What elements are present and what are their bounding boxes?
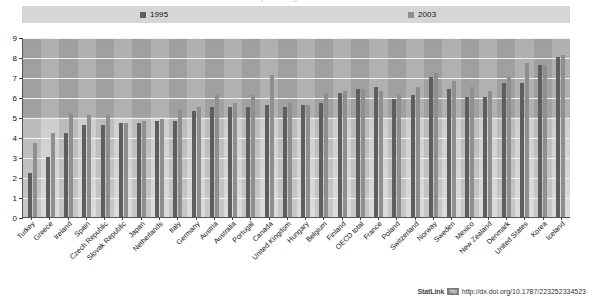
x-axis-tick-label: Greece [33, 220, 55, 242]
bar-group [78, 38, 96, 217]
bar-2003[interactable] [416, 87, 420, 217]
bar-2003[interactable] [251, 95, 255, 217]
bar-1995[interactable] [64, 133, 68, 217]
legend-swatch-2003 [408, 12, 414, 18]
bar-1995[interactable] [119, 123, 123, 217]
bar-2003[interactable] [434, 73, 438, 217]
bar-1995[interactable] [246, 107, 250, 217]
bar-series-container [23, 38, 570, 217]
bar-1995[interactable] [465, 97, 469, 217]
bar-2003[interactable] [507, 77, 511, 217]
bar-2003[interactable] [142, 121, 146, 217]
legend-swatch-1995 [140, 12, 146, 18]
bar-2003[interactable] [561, 55, 565, 217]
y-axis: 0123456789 [0, 38, 20, 218]
bar-2003[interactable] [178, 109, 182, 217]
x-axis-tick-label: Italy [168, 220, 182, 234]
bar-1995[interactable] [447, 89, 451, 217]
bar-1995[interactable] [155, 121, 159, 217]
bar-1995[interactable] [411, 95, 415, 217]
bar-1995[interactable] [356, 89, 360, 217]
bar-1995[interactable] [137, 123, 141, 217]
bar-1995[interactable] [210, 107, 214, 217]
bar-2003[interactable] [543, 65, 547, 217]
y-axis-tick-label: 7 [13, 74, 17, 83]
bar-2003[interactable] [233, 103, 237, 217]
bar-1995[interactable] [429, 77, 433, 217]
bar-group [406, 38, 424, 217]
bar-2003[interactable] [452, 81, 456, 217]
bar-1995[interactable] [173, 121, 177, 217]
bar-group [242, 38, 260, 217]
bar-1995[interactable] [82, 125, 86, 217]
bar-2003[interactable] [288, 103, 292, 217]
statlink-url[interactable]: http://dx.doi.org/10.1787/223252334523 [462, 288, 586, 295]
bar-2003[interactable] [488, 91, 492, 217]
x-axis-labels: TurkeyGreeceIrelandSpainCzech RepublicSl… [22, 220, 570, 280]
bar-1995[interactable] [520, 83, 524, 217]
bar-2003[interactable] [397, 95, 401, 217]
x-axis-tick-label: Iceland [544, 220, 565, 241]
legend-item-2003[interactable]: 2003 [408, 10, 436, 19]
bar-1995[interactable] [374, 87, 378, 217]
bar-1995[interactable] [101, 125, 105, 217]
bar-group [497, 38, 515, 217]
bar-1995[interactable] [556, 57, 560, 217]
y-axis-tick-label: 6 [13, 94, 17, 103]
bar-group [461, 38, 479, 217]
bar-2003[interactable] [51, 133, 55, 217]
bar-1995[interactable] [319, 103, 323, 217]
bar-1995[interactable] [338, 93, 342, 217]
bar-1995[interactable] [192, 111, 196, 217]
x-axis-tick-mark [396, 217, 397, 220]
bar-2003[interactable] [215, 95, 219, 217]
bar-1995[interactable] [483, 97, 487, 217]
cut-off-title-text: percentage of GDP [262, 0, 330, 2]
bar-2003[interactable] [361, 89, 365, 217]
y-axis-tick-label: 0 [13, 214, 17, 223]
bar-2003[interactable] [160, 119, 164, 217]
bar-group [388, 38, 406, 217]
bar-2003[interactable] [324, 93, 328, 217]
bar-group [442, 38, 460, 217]
bar-1995[interactable] [502, 83, 506, 217]
bar-group [297, 38, 315, 217]
bar-2003[interactable] [197, 107, 201, 217]
statlink-footer[interactable]: StatLink http http://dx.doi.org/10.1787/… [417, 288, 586, 295]
bar-2003[interactable] [124, 123, 128, 217]
legend-label-1995: 1995 [150, 10, 168, 19]
bar-2003[interactable] [343, 91, 347, 217]
bar-group [351, 38, 369, 217]
bar-group [534, 38, 552, 217]
bar-2003[interactable] [525, 63, 529, 217]
bar-2003[interactable] [106, 115, 110, 217]
bar-group [151, 38, 169, 217]
bar-group [187, 38, 205, 217]
y-axis-tick-label: 2 [13, 174, 17, 183]
bar-2003[interactable] [87, 115, 91, 217]
bar-1995[interactable] [28, 173, 32, 217]
bar-1995[interactable] [265, 105, 269, 217]
bar-1995[interactable] [228, 107, 232, 217]
bar-1995[interactable] [392, 99, 396, 217]
bar-1995[interactable] [538, 65, 542, 217]
bar-2003[interactable] [270, 75, 274, 217]
bar-1995[interactable] [283, 107, 287, 217]
bar-group [96, 38, 114, 217]
bar-1995[interactable] [46, 157, 50, 217]
bar-group [369, 38, 387, 217]
bar-group [515, 38, 533, 217]
chart-page: percentage of GDP 1995 2003 0123456789 T… [0, 0, 592, 297]
bar-2003[interactable] [306, 105, 310, 217]
bar-2003[interactable] [69, 113, 73, 217]
plot-area [22, 38, 570, 218]
bar-1995[interactable] [301, 105, 305, 217]
bar-group [424, 38, 442, 217]
bar-group [205, 38, 223, 217]
bar-2003[interactable] [33, 143, 37, 217]
legend-item-1995[interactable]: 1995 [140, 10, 168, 19]
y-axis-tick-label: 1 [13, 194, 17, 203]
x-axis-tick-label: Ireland [52, 220, 73, 241]
bar-2003[interactable] [470, 87, 474, 217]
bar-2003[interactable] [379, 91, 383, 217]
